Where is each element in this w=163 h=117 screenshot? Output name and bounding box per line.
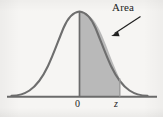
area-annotation-label: Area — [112, 2, 134, 13]
x-axis-tick-label-zero: 0 — [75, 99, 80, 109]
area-arrowhead-icon — [111, 31, 119, 36]
normal-curve-svg — [0, 0, 163, 117]
shaded-area-region — [80, 12, 120, 97]
normal-curve-figure: Area 0 z — [0, 0, 163, 117]
x-axis-tick-label-z: z — [114, 99, 118, 109]
area-leader-line — [115, 17, 141, 34]
